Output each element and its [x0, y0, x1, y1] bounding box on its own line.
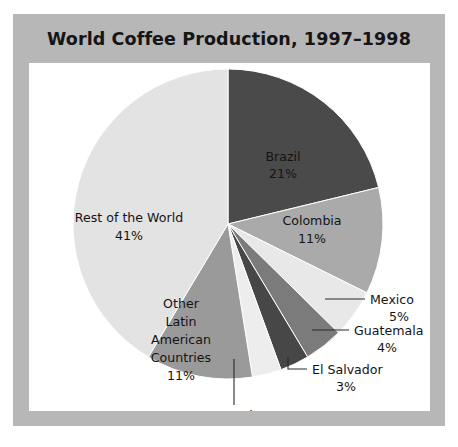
callout-label-costa-rica: Costa Rica: [201, 408, 268, 411]
callout-value-mexico: 5%: [389, 309, 409, 324]
slice-value-rest-of-world: 41%: [115, 228, 143, 243]
slice-label-rest-of-world: Rest of the World: [75, 210, 183, 225]
slice-value-colombia: 11%: [298, 231, 326, 246]
callout-label-mexico: Mexico: [370, 292, 414, 307]
pie-chart: Brazil 21% Colombia 11% Mexico 5% Guatem…: [29, 63, 430, 411]
slice-label-other-latin-line2: Latin: [165, 314, 196, 329]
callout-value-el-salvador: 3%: [336, 379, 356, 394]
callout-label-el-salvador: El Salvador: [312, 362, 384, 377]
plot-area: Brazil 21% Colombia 11% Mexico 5% Guatem…: [29, 63, 430, 411]
slice-value-other-latin: 11%: [167, 368, 195, 383]
slice-label-other-latin-line3: American: [151, 332, 211, 347]
slice-value-brazil: 21%: [269, 166, 297, 181]
chart-figure: World Coffee Production, 1997–1998 Brazi…: [0, 0, 458, 447]
slice-label-other-latin-line4: Countries: [151, 350, 211, 365]
page-title: World Coffee Production, 1997–1998: [47, 29, 411, 49]
slice-label-colombia: Colombia: [282, 213, 341, 228]
callout-value-guatemala: 4%: [377, 340, 397, 355]
chart-title-band: World Coffee Production, 1997–1998: [13, 14, 445, 63]
slice-label-brazil: Brazil: [265, 149, 300, 164]
slice-label-other-latin-line1: Other: [163, 296, 200, 311]
callout-label-guatemala: Guatemala: [354, 323, 423, 338]
